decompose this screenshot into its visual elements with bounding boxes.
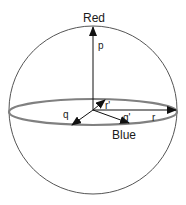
label-p: p [98,40,104,51]
vector-r-prime-arrow [93,100,105,110]
label-q-prime: q' [123,112,131,123]
label-q: q [63,109,69,120]
vector-q-arrow [72,110,93,125]
label-blue: Blue [112,128,136,142]
diagram-canvas: Red Blue p q r' q' r [0,0,186,205]
color-sphere-diagram: Red Blue p q r' q' r [0,0,186,205]
label-r-prime: r' [105,100,110,111]
label-red: Red [83,11,105,25]
